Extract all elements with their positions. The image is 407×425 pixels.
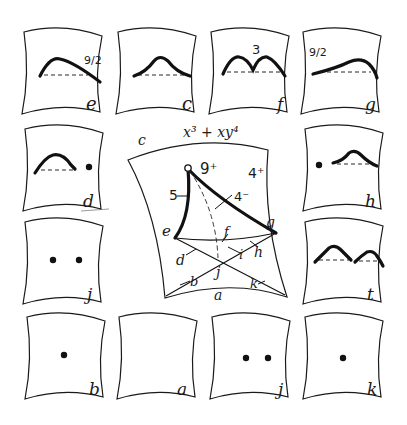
dot [50,257,56,263]
panel-label-d: d [83,191,94,211]
label-f: f [223,224,231,239]
panel-label-k: k [367,379,377,399]
label-4plus: 4⁺ [248,165,264,181]
panel-label-h: h [365,191,376,211]
panel-k: k [303,313,383,399]
panel-f: 3 f [209,28,289,114]
panel-label-a: a [177,379,187,399]
label-d: d [176,252,185,268]
center-corner-label-c: c [138,132,146,148]
double-hump-curve [223,57,285,76]
hump-curve [134,58,190,77]
label-e: e [162,222,171,240]
label-b: b [190,274,198,289]
label-5: 5 [169,187,178,203]
label-i: i [239,247,243,262]
panel-label-j: j [83,284,93,304]
panel-j-left: j [23,218,103,304]
dot [265,355,271,361]
panel-g: 9/2 g [301,28,381,114]
annotation-9-2: 9/2 [84,54,102,67]
cusp-vertex [185,165,191,171]
annotation-9-2: 9/2 [309,46,327,59]
label-a: a [214,287,222,303]
panel-label-b: b [89,379,100,399]
annotation-3: 3 [252,42,260,57]
dot [86,164,92,170]
panel-b: b [25,313,105,399]
panel-label-j: j [274,379,284,399]
bifurcation-diagram: 9/2 e c 3 f 9/2 g d h [0,0,407,425]
dot [340,355,346,361]
panel-label-t: t [367,284,374,304]
hump-curve [313,60,377,78]
panel-label-c: c [182,93,192,114]
formula: x³ + xy⁴ [183,124,239,140]
panel-e: 9/2 e [22,28,102,114]
panel-t: t [303,218,383,304]
label-9plus: 9⁺ [200,160,217,178]
dot [61,352,67,358]
label-g: g [266,214,275,230]
panel-label-e: e [86,93,97,114]
cusp-edge-left [175,169,189,238]
label-j: j [213,264,221,280]
panel-a: a [117,313,197,399]
panel-d: d [23,125,109,211]
label-k: k [250,276,258,291]
label-4minus: 4⁻ [234,189,249,204]
panel-j-bottom: j [210,313,290,399]
dot [316,162,322,168]
dot [76,257,82,263]
panel-h: h [303,125,383,211]
center-bifurcation-set: x³ + xy⁴ c 9⁺ 4⁺ 5 4⁻ e g f d i h j b [128,124,287,303]
dot [243,355,249,361]
panel-c: c [116,28,196,114]
panel-label-g: g [365,94,376,114]
label-h: h [254,244,263,260]
